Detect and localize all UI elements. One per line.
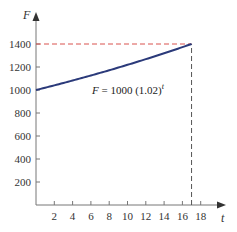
x-tick-label: 14 (159, 210, 171, 222)
y-tick-label: 800 (15, 107, 32, 119)
exponential-growth-chart: 200400600800100012001400 24681012141618 … (0, 0, 237, 232)
x-tick-label: 2 (52, 210, 58, 222)
y-axis-title: F (22, 8, 31, 22)
y-axis-ticks: 200400600800100012001400 (9, 38, 40, 188)
x-axis-title: t (221, 211, 225, 225)
equation-exponent: t (162, 82, 165, 91)
y-tick-label: 400 (15, 153, 32, 165)
equation-rest: = 1000 (1.02) (99, 84, 162, 97)
y-tick-label: 1200 (9, 61, 32, 73)
x-tick-label: 18 (195, 210, 207, 222)
x-tick-label: 16 (177, 210, 189, 222)
x-axis-arrow-icon (217, 202, 226, 209)
y-tick-label: 200 (15, 176, 32, 188)
x-tick-label: 12 (140, 210, 151, 222)
x-tick-label: 6 (88, 210, 94, 222)
y-tick-label: 1000 (9, 84, 32, 96)
equation-label: F = 1000 (1.02)t (91, 82, 165, 97)
x-tick-label: 4 (70, 210, 76, 222)
y-axis-arrow-icon (33, 12, 40, 21)
y-tick-label: 600 (15, 130, 32, 142)
y-tick-label: 1400 (9, 38, 32, 50)
x-tick-label: 8 (106, 210, 112, 222)
x-tick-label: 10 (122, 210, 134, 222)
x-axis-ticks: 24681012141618 (52, 201, 207, 222)
